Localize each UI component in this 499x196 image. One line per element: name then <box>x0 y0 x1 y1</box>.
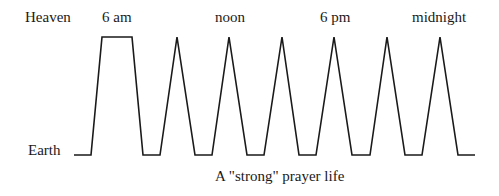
time-label-6am: 6 am <box>102 10 132 25</box>
heaven-label: Heaven <box>25 10 71 25</box>
caption: A "strong" prayer life <box>215 169 344 184</box>
earth-label: Earth <box>28 143 60 158</box>
time-label-midnight: midnight <box>412 10 466 25</box>
time-label-6pm: 6 pm <box>320 10 350 25</box>
waveform-line <box>74 37 475 155</box>
time-label-noon: noon <box>215 10 245 25</box>
prayer-waveform <box>0 0 499 196</box>
